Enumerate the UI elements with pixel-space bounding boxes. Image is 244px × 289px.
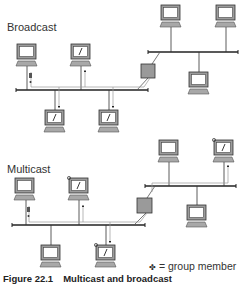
computer-icon	[215, 5, 236, 27]
computer-icon	[186, 205, 207, 227]
group-member-icon: ✤	[149, 263, 156, 272]
computer-icon	[14, 178, 35, 200]
computer-icon	[160, 5, 181, 27]
computer-icon	[188, 72, 209, 94]
multicast-diagram	[12, 138, 236, 267]
computer-icon	[213, 140, 234, 162]
computer-icon	[95, 245, 116, 267]
group-member-icon	[67, 138, 215, 246]
computer-icon	[98, 110, 119, 132]
network-diagram	[0, 0, 244, 289]
computer-icon	[68, 178, 89, 200]
computer-icon	[44, 110, 65, 132]
section-title-multicast: Multicast	[7, 163, 50, 175]
caption-title: Multicast and broadcast	[63, 273, 172, 284]
legend-text: = group member	[159, 260, 236, 272]
router-icon	[141, 64, 155, 78]
computer-icon	[70, 44, 91, 66]
router-icon	[137, 198, 152, 213]
computer-icon	[40, 245, 61, 267]
caption-number: Figure 22.1	[3, 273, 53, 284]
section-title-broadcast: Broadcast	[7, 21, 57, 33]
figure-caption: Figure 22.1Multicast and broadcast	[3, 273, 172, 284]
computer-icon	[158, 140, 179, 162]
legend: ✤ = group member	[149, 260, 236, 272]
computer-icon	[16, 44, 37, 66]
